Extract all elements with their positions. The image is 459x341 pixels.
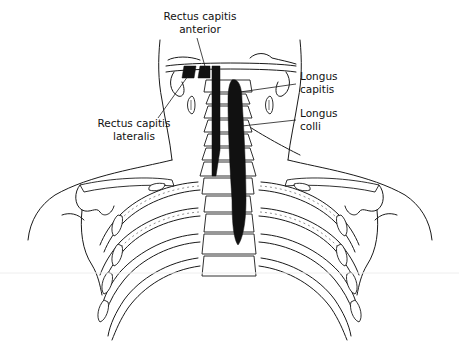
label-line: Rectus capitis: [94, 117, 174, 130]
label-line: Longus: [300, 107, 338, 120]
rectus-capitis-lateralis-muscle: [182, 66, 196, 78]
label-line: anterior: [150, 23, 250, 36]
label-line: capitis: [300, 83, 338, 96]
leader-longus-colli: [242, 120, 296, 126]
leader-rectus-capitis-lateralis: [158, 76, 188, 118]
label-rectus-capitis-anterior: Rectus capitis anterior: [150, 10, 250, 36]
label-longus-colli: Longus colli: [300, 107, 338, 133]
ribs-left: [98, 182, 200, 340]
rectus-capitis-anterior-muscle: [198, 66, 210, 78]
leader-rectus-capitis-anterior: [197, 38, 206, 70]
label-line: Rectus capitis: [150, 10, 250, 23]
anatomy-drawing: [0, 0, 459, 341]
label-line: colli: [300, 120, 338, 133]
label-line: Longus: [300, 70, 338, 83]
label-line: lateralis: [94, 130, 174, 143]
label-rectus-capitis-lateralis: Rectus capitis lateralis: [94, 117, 174, 143]
label-longus-capitis: Longus capitis: [300, 70, 338, 96]
